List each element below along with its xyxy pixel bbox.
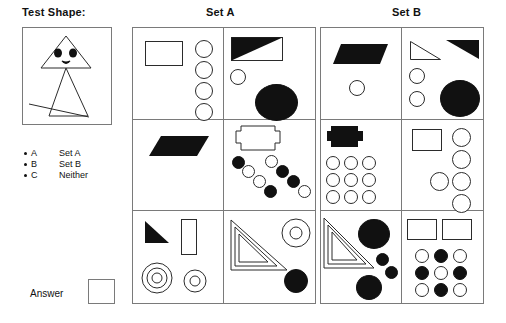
black-right-triangle bbox=[145, 221, 169, 243]
large-black-circle bbox=[440, 80, 480, 117]
puzzle-page: Test Shape: A Set A B Set B bbox=[0, 0, 506, 323]
white-circle bbox=[452, 128, 471, 147]
white-tabbed-rectangle bbox=[236, 126, 280, 150]
set-a-cell-r2c1 bbox=[133, 120, 224, 212]
white-circle bbox=[452, 150, 471, 169]
legend: A Set A B Set B C Neither bbox=[24, 148, 128, 181]
black-right-triangle bbox=[446, 40, 479, 59]
white-rectangle bbox=[145, 41, 183, 66]
black-parallelogram bbox=[149, 136, 209, 156]
white-circle bbox=[452, 194, 471, 213]
large-black-circle bbox=[356, 275, 382, 300]
black-parallelogram bbox=[333, 44, 388, 64]
eye-dot-right bbox=[69, 49, 77, 58]
white-circle bbox=[362, 156, 376, 170]
set-b-cell-r2c2 bbox=[402, 120, 483, 212]
white-tall-rectangle bbox=[181, 219, 197, 255]
white-circle bbox=[242, 165, 255, 178]
set-a-cell-r1c2 bbox=[224, 28, 315, 120]
bullet-icon bbox=[24, 174, 27, 177]
eye-dot-left bbox=[54, 49, 62, 58]
set-b-cell-r3c1 bbox=[321, 211, 402, 303]
white-circle bbox=[326, 156, 340, 170]
black-circle bbox=[264, 185, 277, 198]
large-black-circle bbox=[255, 84, 298, 121]
white-rectangle bbox=[407, 219, 437, 240]
white-circle bbox=[452, 172, 471, 191]
nested-triangles-outline bbox=[230, 219, 288, 271]
white-circle bbox=[326, 173, 340, 187]
white-circle bbox=[344, 190, 358, 204]
legend-value: Neither bbox=[59, 170, 88, 181]
test-shape-box bbox=[22, 27, 112, 125]
black-circle bbox=[434, 249, 448, 263]
white-rectangle bbox=[412, 129, 442, 151]
white-circle bbox=[415, 249, 429, 263]
half-black-diagonal-rectangle bbox=[231, 37, 283, 61]
small-white-circle bbox=[409, 91, 425, 107]
legend-key: A bbox=[31, 148, 59, 159]
triple-concentric-circle bbox=[141, 262, 173, 294]
black-tabbed-rectangle bbox=[327, 126, 363, 147]
white-circle bbox=[195, 61, 213, 79]
legend-key: C bbox=[31, 170, 59, 181]
set-a-header: Set A bbox=[206, 6, 235, 18]
bullet-icon bbox=[24, 163, 27, 166]
legend-row: B Set B bbox=[24, 159, 128, 170]
black-circle bbox=[284, 269, 308, 293]
white-circle bbox=[298, 185, 311, 198]
set-a-cell-r2c2 bbox=[224, 120, 315, 212]
bullet-icon bbox=[24, 152, 27, 155]
white-circle bbox=[430, 172, 449, 191]
white-rectangle bbox=[442, 219, 472, 240]
double-concentric-circle bbox=[183, 269, 207, 293]
white-circle bbox=[253, 175, 266, 188]
legend-value: Set A bbox=[59, 148, 81, 159]
small-black-circle bbox=[385, 266, 398, 279]
test-shape-drawing bbox=[23, 28, 113, 126]
white-circle bbox=[415, 283, 429, 297]
black-circle bbox=[434, 283, 448, 297]
set-a-cell-r3c1 bbox=[133, 211, 224, 303]
white-right-triangle bbox=[410, 41, 441, 60]
black-circle bbox=[287, 175, 300, 188]
set-a-grid bbox=[132, 27, 316, 304]
set-b-cell-r2c1 bbox=[321, 120, 402, 212]
answer-input-box[interactable] bbox=[88, 279, 115, 304]
black-circle bbox=[276, 165, 289, 178]
legend-value: Set B bbox=[59, 159, 81, 170]
white-circle bbox=[434, 266, 448, 280]
white-circle bbox=[344, 156, 358, 170]
legend-row: A Set A bbox=[24, 148, 128, 159]
white-circle bbox=[195, 40, 213, 58]
set-b-cell-r1c1 bbox=[321, 28, 402, 120]
set-b-grid bbox=[320, 27, 484, 304]
white-circle bbox=[326, 190, 340, 204]
set-a-cell-r3c2 bbox=[224, 211, 315, 303]
white-circle bbox=[453, 283, 467, 297]
set-b-cell-r1c2 bbox=[402, 28, 483, 120]
answer-label: Answer bbox=[30, 288, 63, 299]
black-circle bbox=[415, 266, 429, 280]
white-circle bbox=[344, 173, 358, 187]
white-circle bbox=[265, 155, 278, 168]
set-a-cell-r1c1 bbox=[133, 28, 224, 120]
small-white-circle bbox=[349, 80, 365, 96]
test-shape-label: Test Shape: bbox=[22, 6, 86, 18]
white-circle bbox=[453, 249, 467, 263]
white-circle bbox=[362, 190, 376, 204]
set-b-header: Set B bbox=[392, 6, 421, 18]
donut-circle bbox=[281, 218, 311, 248]
set-b-cell-r3c2 bbox=[402, 211, 483, 303]
small-black-circle bbox=[376, 253, 389, 266]
white-circle bbox=[362, 173, 376, 187]
body-triangle-outline bbox=[49, 68, 88, 116]
large-black-circle bbox=[358, 219, 390, 249]
legend-key: B bbox=[31, 159, 59, 170]
black-circle bbox=[453, 266, 467, 280]
small-white-circle bbox=[409, 68, 425, 84]
white-circle bbox=[195, 103, 213, 121]
white-circle bbox=[195, 82, 213, 100]
legend-row: C Neither bbox=[24, 170, 128, 181]
small-white-circle bbox=[230, 69, 246, 85]
